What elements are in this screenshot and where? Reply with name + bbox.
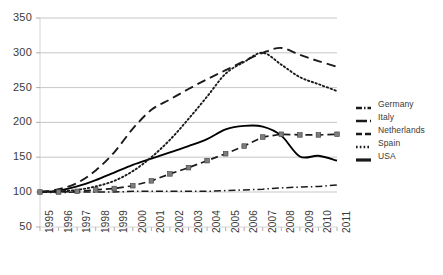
x-tick-label: 1999 [118, 210, 129, 233]
data-point-marker [186, 165, 191, 170]
x-tick-label: 2007 [267, 210, 278, 233]
gridlines [40, 18, 337, 227]
data-point-marker [205, 158, 210, 163]
legend-label: USA [378, 151, 396, 161]
x-tick-label: 2003 [193, 210, 204, 233]
data-point-marker [75, 189, 80, 194]
data-point-marker [316, 133, 321, 138]
data-point-marker [112, 186, 117, 191]
data-point-marker [335, 132, 340, 137]
y-tick-label: 50 [6, 220, 32, 232]
legend-swatch-icon [355, 151, 372, 161]
legend-item-italy[interactable]: Italy [355, 110, 443, 123]
chart-legend: GermanyItalyNetherlandsSpainUSA [355, 97, 443, 162]
data-point-marker [149, 179, 154, 184]
data-point-marker [223, 151, 228, 156]
legend-item-germany[interactable]: Germany [355, 97, 443, 110]
x-tick-label: 2006 [248, 210, 259, 233]
x-tick-label: 2009 [304, 210, 315, 233]
x-tick-label: 2000 [137, 210, 148, 233]
x-tick-label: 2011 [341, 211, 352, 233]
y-tick-label: 350 [6, 11, 32, 23]
series-line-netherlands [40, 125, 337, 192]
y-tick-label: 250 [6, 81, 32, 93]
legend-label: Italy [378, 112, 394, 122]
legend-swatch-icon [355, 138, 372, 148]
legend-swatch-icon [355, 125, 372, 135]
x-tick-label: 2004 [211, 210, 222, 233]
x-tick-label: 2001 [155, 210, 166, 233]
y-tick-label: 100 [6, 185, 32, 197]
data-point-marker [242, 144, 247, 149]
legend-label: Spain [378, 138, 400, 148]
legend-swatch-icon [355, 112, 372, 122]
data-point-marker [168, 172, 173, 177]
x-tick-label: 1998 [100, 210, 111, 233]
x-tick-label: 2008 [285, 210, 296, 233]
x-tick-label: 1996 [63, 210, 74, 233]
line-chart: 35030025020015010050 1995199619971998199… [0, 0, 443, 275]
x-tick-label: 2002 [174, 210, 185, 233]
data-point-marker [56, 190, 61, 195]
legend-label: Germany [378, 99, 414, 109]
data-point-marker [298, 133, 303, 138]
data-point-marker [38, 190, 43, 195]
x-tick-label: 2005 [230, 210, 241, 233]
x-tick-label: 2010 [322, 210, 333, 233]
data-point-marker [260, 135, 265, 140]
y-tick-label: 300 [6, 46, 32, 58]
legend-label: Netherlands [378, 125, 425, 135]
y-tick-label: 200 [6, 115, 32, 127]
x-tick-label: 1995 [44, 210, 55, 233]
legend-item-usa[interactable]: USA [355, 149, 443, 162]
y-tick-label: 150 [6, 150, 32, 162]
data-point-marker [131, 183, 136, 188]
data-point-marker [279, 132, 284, 137]
x-tick-label: 1997 [81, 210, 92, 233]
series-lines [40, 48, 337, 193]
legend-item-spain[interactable]: Spain [355, 136, 443, 149]
legend-swatch-icon [355, 99, 372, 109]
legend-item-netherlands[interactable]: Netherlands [355, 123, 443, 136]
data-point-marker [93, 188, 98, 193]
axis-ticks [36, 18, 337, 231]
